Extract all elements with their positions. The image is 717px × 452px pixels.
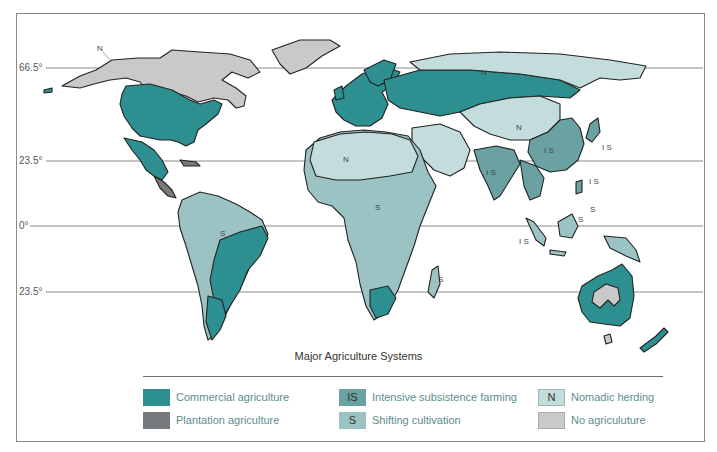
map-code-is-sumatra: I S	[519, 237, 529, 246]
swatch-plantation	[143, 412, 170, 429]
latitude-label-tropic-cancer: 23.5°	[19, 156, 42, 166]
philippines	[576, 180, 582, 194]
aleutian-islands	[44, 88, 52, 93]
legend-divider	[143, 376, 663, 377]
map-code-is-india: I S	[486, 168, 496, 177]
legend-label-shifting: Shifting cultivation	[372, 414, 461, 426]
world-map: N N N I S I S I S I S S S I S N S S S	[0, 0, 717, 452]
japan	[586, 118, 600, 142]
sumatra	[526, 218, 546, 246]
tasmania	[604, 334, 612, 344]
legend-label-plantation: Plantation agriculture	[176, 414, 279, 426]
legend-label-nomadic: Nomadic herding	[571, 391, 654, 403]
greenland	[272, 40, 340, 74]
map-code-s-madagascar: S	[438, 275, 443, 284]
latitude-label-equator: 0°	[19, 221, 29, 231]
map-code-is-china: I S	[544, 146, 554, 155]
swatch-shifting: S	[339, 412, 366, 429]
legend-item-no-agriculture: No agriculuture	[538, 411, 646, 429]
map-code-s-borneo: S	[578, 215, 583, 224]
legend-label-no-agriculture: No agriculuture	[571, 414, 646, 426]
map-code-s-amazon: S	[220, 229, 225, 238]
latitude-label-tropic-capricorn: 23.5°	[19, 287, 42, 297]
new-zealand	[640, 328, 668, 352]
legend-item-plantation: Plantation agriculture	[143, 411, 279, 429]
map-code-s-central-africa: S	[375, 203, 380, 212]
legend-title: Major Agriculture Systems	[0, 350, 717, 362]
map-code-n-mongolia: N	[516, 123, 522, 132]
java	[550, 250, 566, 256]
british-isles	[334, 86, 344, 100]
mexico	[124, 138, 168, 180]
swatch-commercial	[143, 389, 170, 406]
latitude-label-arctic: 66.5°	[19, 63, 42, 73]
central-america	[154, 176, 176, 198]
new-guinea	[604, 236, 640, 262]
legend-item-shifting: S Shifting cultivation	[339, 411, 461, 429]
swatch-intensive-subsistence: IS	[339, 389, 366, 406]
borneo	[558, 214, 578, 238]
map-code-n-sahara: N	[343, 155, 349, 164]
india-intensive	[474, 146, 520, 200]
sahara-nomadic	[310, 132, 418, 180]
swatch-no-agriculture	[538, 412, 565, 429]
legend-item-commercial: Commercial agriculture	[143, 388, 289, 406]
map-code-s-philippines: S	[590, 205, 595, 214]
map-code-n-russia: N	[481, 68, 487, 77]
legend-item-nomadic: N Nomadic herding	[538, 388, 654, 406]
legend-label-intensive-subsistence: Intensive subsistence farming	[372, 391, 517, 403]
legend-item-intensive-subsistence: IS Intensive subsistence farming	[339, 388, 517, 406]
swatch-nomadic: N	[538, 389, 565, 406]
map-code-n-alaska: N	[97, 44, 103, 53]
map-code-is-philippines: I S	[589, 177, 599, 186]
legend-label-commercial: Commercial agriculture	[176, 391, 289, 403]
map-code-is-japan: I S	[602, 143, 612, 152]
